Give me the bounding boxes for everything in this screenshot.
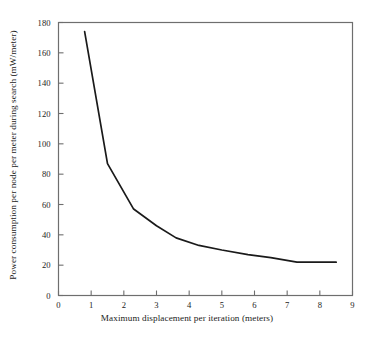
chart-figure: 020406080100120140160180 0123456789 Powe… (0, 0, 374, 339)
x-tick-label: 5 (220, 300, 224, 310)
x-tick-label: 2 (122, 300, 126, 310)
y-axis-title-container: Power consumption per node per meter dur… (0, 0, 26, 310)
y-tick-label: 160 (38, 48, 51, 58)
plot-frame (59, 23, 353, 296)
x-tick-label: 8 (318, 300, 322, 310)
y-tick-label: 80 (42, 169, 51, 179)
y-tick-label: 0 (46, 291, 50, 301)
x-tick-label: 0 (56, 300, 60, 310)
y-tick-label: 100 (38, 139, 51, 149)
x-tick-label: 9 (350, 300, 354, 310)
x-tick-label: 7 (285, 300, 290, 310)
y-tick-label: 40 (42, 230, 51, 240)
y-tick-label: 140 (38, 78, 51, 88)
x-axis-ticks: 0123456789 (56, 291, 354, 310)
x-axis-title: Maximum displacement per iteration (mete… (0, 313, 374, 323)
x-tick-label: 4 (187, 300, 192, 310)
y-axis-title: Power consumption per node per meter dur… (8, 30, 18, 279)
x-tick-label: 6 (252, 300, 257, 310)
x-tick-label: 1 (89, 300, 93, 310)
y-tick-label: 120 (38, 109, 51, 119)
line-chart-plot: 020406080100120140160180 0123456789 (0, 0, 374, 339)
y-tick-label: 20 (42, 260, 51, 270)
y-tick-label: 180 (38, 18, 51, 28)
plot-border (59, 23, 353, 296)
y-tick-label: 60 (42, 200, 51, 210)
data-series-line (85, 32, 337, 263)
x-tick-label: 3 (154, 300, 158, 310)
y-axis-ticks: 020406080100120140160180 (38, 18, 64, 301)
